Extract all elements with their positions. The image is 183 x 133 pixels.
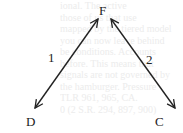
diagram-canvas: F D C 1 2 [0, 0, 183, 133]
edge-1-label: 1 [48, 50, 55, 65]
node-d-label: D [26, 114, 35, 129]
node-f-label: F [99, 3, 106, 18]
edge-f-c [111, 19, 175, 108]
node-c-label: C [155, 114, 164, 129]
edge-2-label: 2 [146, 52, 153, 67]
edge-f-d [35, 19, 98, 108]
